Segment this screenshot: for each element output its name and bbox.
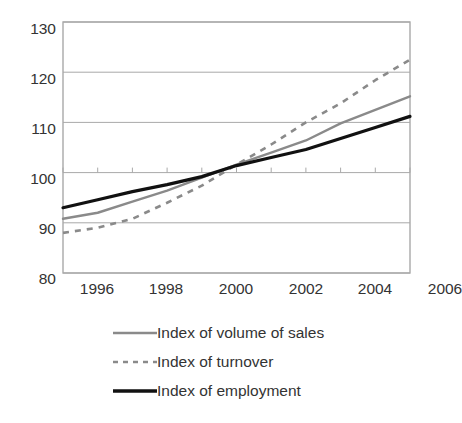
chart-legend: Index of volume of sales Index of turnov… (0, 318, 437, 405)
line-chart-svg (0, 0, 437, 300)
x-axis-labels: 1996 1998 2000 2002 2004 2006 (0, 281, 437, 303)
x-tick-label: 2006 (428, 281, 462, 297)
x-tick-label: 1998 (149, 281, 183, 297)
x-tick-label: 2004 (358, 281, 392, 297)
series-line-3 (63, 116, 410, 207)
plot-frame (63, 22, 410, 273)
chart-plot-area: 130 120 110 100 90 80 1996 1998 2000 200… (0, 0, 437, 300)
legend-line-swatch-solid-black (113, 384, 157, 398)
legend-item-turnover: Index of turnover (0, 347, 437, 376)
legend-label: Index of turnover (157, 354, 273, 370)
x-tick-label: 2000 (219, 281, 253, 297)
legend-item-employment: Index of employment (0, 376, 437, 405)
x-tick-label: 1996 (80, 281, 114, 297)
legend-label: Index of employment (157, 383, 301, 399)
x-tick-label: 2002 (289, 281, 323, 297)
legend-item-volume-of-sales: Index of volume of sales (0, 318, 437, 347)
series-line-1 (63, 96, 410, 218)
legend-line-swatch-solid-gray (113, 326, 157, 340)
legend-label: Index of volume of sales (157, 325, 324, 341)
legend-line-swatch-dashed-gray (113, 355, 157, 369)
